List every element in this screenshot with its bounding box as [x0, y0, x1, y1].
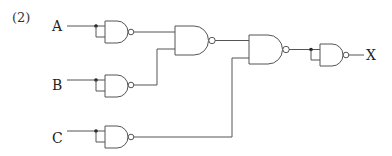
wire-c-to-abc	[134, 58, 249, 137]
output-label-x: X	[366, 47, 376, 63]
nand-gate-abc	[249, 35, 289, 64]
nand-gate-output	[309, 44, 349, 66]
input-label-a: A	[51, 18, 63, 34]
wire-b-to-ab	[134, 49, 175, 85]
nand-gate-a	[67, 21, 134, 43]
input-label-c: C	[52, 130, 63, 146]
nand-gate-ab	[175, 26, 215, 55]
input-label-b: B	[52, 77, 62, 93]
problem-label: (2)	[12, 10, 30, 25]
nand-gate-b	[67, 75, 134, 97]
nand-gate-c	[67, 126, 134, 148]
logic-circuit-diagram: (2) A B C X	[0, 0, 392, 156]
